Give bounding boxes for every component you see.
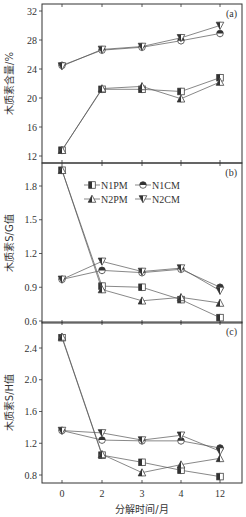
series-n2cm <box>58 22 224 71</box>
y-tick-label: 0.9 <box>25 282 38 293</box>
panel-tag: (c) <box>226 326 237 338</box>
chart-figure: 121620242832木质素含量/%(a)0.60.91.21.51.8木质素… <box>0 0 246 517</box>
y-tick-label: 0.8 <box>25 470 38 481</box>
legend-item-n2cm: N2CM <box>135 194 180 205</box>
y-tick-label: 2.4 <box>25 343 38 354</box>
y-tick-label: 1.5 <box>25 214 38 225</box>
y-tick-label: 24 <box>27 64 37 75</box>
y-axis-label: 木质素S/G值 <box>3 214 15 271</box>
panel-b: 0.60.91.21.51.8木质素S/G值(b)N1PMN1CMN2PMN2C… <box>3 163 242 327</box>
y-tick-label: 1.6 <box>25 406 38 417</box>
legend-label: N2CM <box>152 194 180 205</box>
x-axis: 023412 <box>60 488 226 499</box>
legend-item-n2pm: N2PM <box>84 194 128 205</box>
series-n2pm <box>58 333 224 477</box>
legend: N1PMN1CMN2PMN2CM <box>84 180 180 205</box>
y-tick-label: 1.8 <box>25 181 38 192</box>
x-tick-label: 4 <box>179 488 184 499</box>
x-tick-label: 2 <box>100 488 105 499</box>
y-tick-label: 1.2 <box>25 438 38 449</box>
legend-label: N1CM <box>152 180 180 191</box>
legend-item-n1pm: N1PM <box>84 180 128 191</box>
series-n2cm <box>58 427 224 456</box>
legend-item-n1cm: N1CM <box>135 180 180 191</box>
series-n2pm <box>58 78 224 154</box>
y-tick-label: 28 <box>27 35 37 46</box>
x-axis-label: 分解时间/月 <box>115 503 168 515</box>
legend-label: N2PM <box>101 194 128 205</box>
y-tick-label: 20 <box>27 93 37 104</box>
panel-a: 121620242832木质素含量/%(a) <box>3 4 242 163</box>
y-tick-label: 16 <box>27 122 37 133</box>
series-n1cm <box>59 29 224 69</box>
y-tick-label: 2.0 <box>25 374 38 385</box>
y-tick-label: 32 <box>27 6 37 17</box>
x-tick-label: 0 <box>60 488 65 499</box>
legend-label: N1PM <box>101 180 128 191</box>
y-axis-label: 木质素S/H值 <box>3 374 15 431</box>
x-tick-label: 12 <box>215 488 225 499</box>
y-tick-label: 1.2 <box>25 248 38 259</box>
panel-c: 0.81.21.62.02.4木质素S/H值(c) <box>3 322 242 483</box>
panel-tag: (a) <box>226 8 237 20</box>
series-n1pm <box>59 334 224 481</box>
y-axis-label: 木质素含量/% <box>3 52 15 115</box>
panel-tag: (b) <box>225 167 237 179</box>
y-tick-label: 12 <box>27 151 37 162</box>
x-tick-label: 3 <box>140 488 145 499</box>
y-tick-label: 0.6 <box>25 316 38 327</box>
